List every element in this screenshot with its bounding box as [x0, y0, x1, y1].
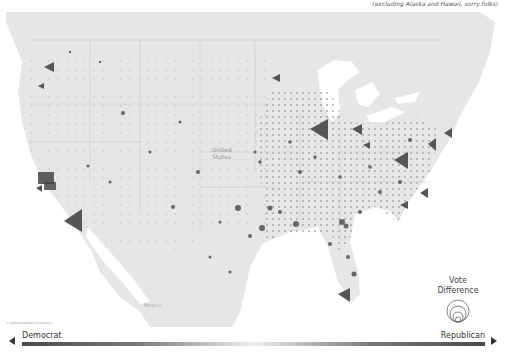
arrow-right-icon [491, 337, 497, 345]
vote-difference-legend: Vote Difference [428, 276, 488, 324]
democrat-label: Democrat [22, 331, 62, 340]
color-gradient-bar [22, 342, 485, 346]
republican-label: Republican [441, 331, 485, 340]
legend-title-line1: Vote [428, 276, 488, 286]
map-subtitle: (excluding Alaska and Hawaii, sorry folk… [372, 0, 498, 7]
map-attribution[interactable]: © OpenStreetMap contributors [6, 321, 53, 325]
arrow-left-icon [9, 337, 15, 345]
party-color-scale: Democrat Republican [0, 330, 506, 353]
country-label: United [212, 146, 232, 153]
size-legend-circles-icon [443, 298, 473, 324]
svg-text:States: States [212, 153, 231, 160]
legend-title-line2: Difference [428, 286, 488, 296]
place-label-mexico: Mexico [144, 302, 161, 308]
